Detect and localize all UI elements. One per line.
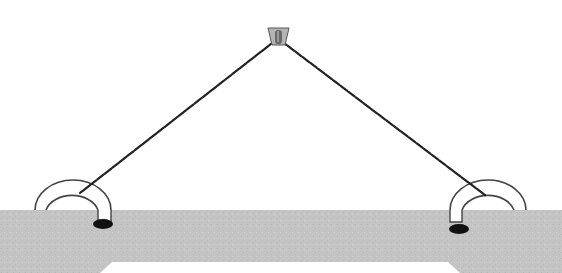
string-and-staples-illustration: [0, 0, 562, 273]
right-anchor-hole: [449, 224, 469, 234]
left-anchor-hole: [93, 219, 113, 229]
board: [0, 210, 562, 273]
board-cutout: [100, 262, 460, 273]
diagram-scene: [0, 0, 562, 273]
nail-icon: [268, 28, 289, 45]
string: [80, 40, 485, 195]
